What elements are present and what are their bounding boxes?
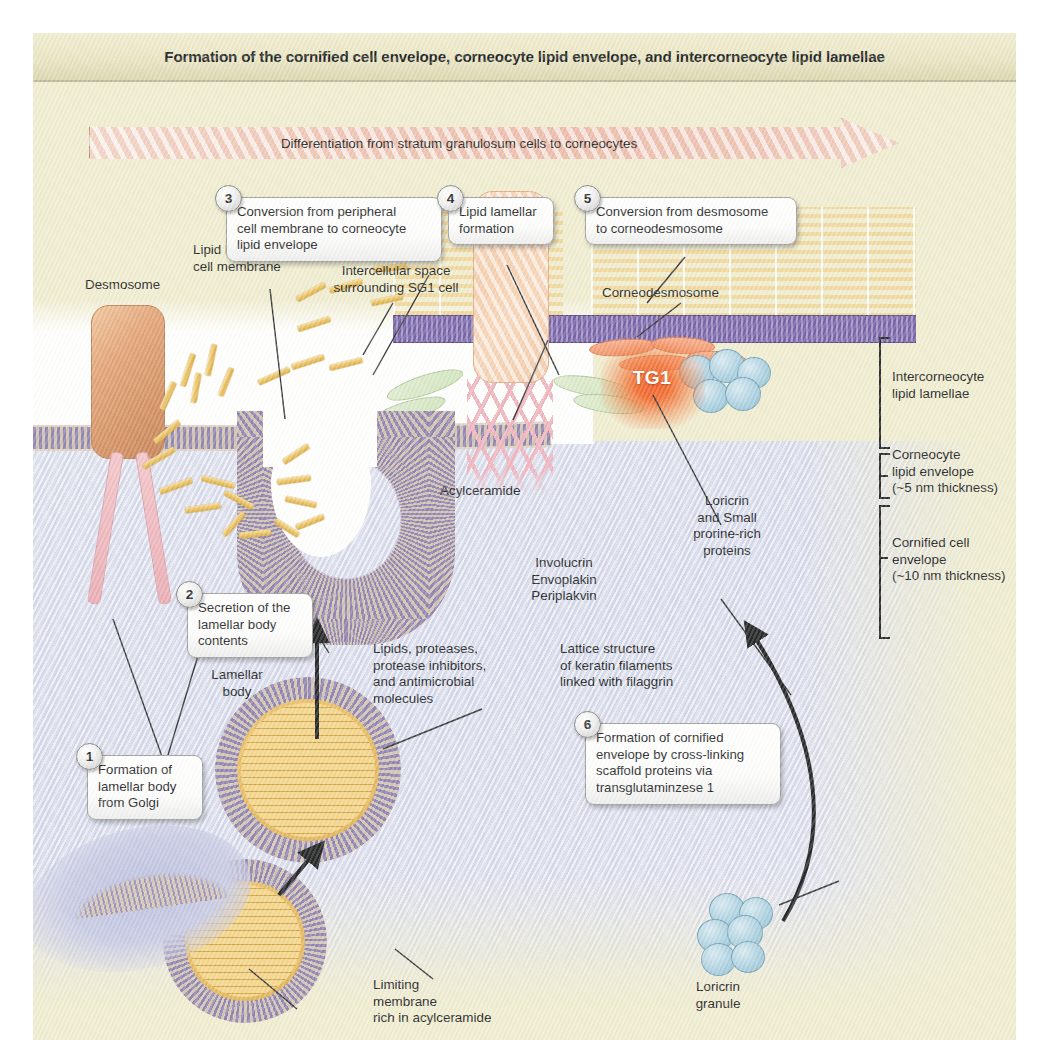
- step-callout-5[interactable]: Conversion from desmosome to corneodesmo…: [585, 197, 797, 245]
- figure-title: Formation of the cornified cell envelope…: [33, 33, 1016, 80]
- bracket-label-intercorneocyte: Intercorneocyte lipid lamellae: [892, 369, 984, 402]
- step-number-1: 1: [76, 743, 103, 770]
- label-involucrin-group: Involucrin Envoplakin Periplakvin: [503, 555, 625, 605]
- label-desmosome: Desmosome: [85, 277, 160, 294]
- label-lattice-structure: Lattice structure of keratin filaments l…: [560, 641, 673, 691]
- bracket-intercorneocyte: [879, 337, 881, 449]
- label-loricrin-sprr: Loricrin and Small prorine-rich proteins: [673, 493, 781, 559]
- bracket-label-cornified-envelope: Cornified cell envelope (~10 nm thicknes…: [892, 535, 1006, 585]
- bracket-annotations: Intercorneocyte lipid lamellae Corneocyt…: [879, 329, 1016, 729]
- bracket-tick: [879, 475, 888, 477]
- flow-arrows: [33, 179, 1016, 1040]
- step-number-3: 3: [215, 185, 242, 212]
- label-intercellular-space: Intercellular space surrounding SG1 cell: [301, 263, 491, 296]
- step-callout-3[interactable]: Conversion from peripheral cell membrane…: [226, 197, 442, 262]
- step-callout-2[interactable]: Secretion of the lamellar body contents: [187, 593, 313, 658]
- step-number-6: 6: [574, 711, 601, 738]
- step-number-2: 2: [176, 581, 203, 608]
- step-callout-6[interactable]: Formation of cornified envelope by cross…: [585, 723, 781, 805]
- label-lamellar-body: Lamellar body: [183, 667, 291, 700]
- label-corneodesmosome: Corneodesmosome: [602, 285, 719, 302]
- arrow-label: Differentiation from stratum granulosum …: [89, 118, 829, 168]
- step-callout-4[interactable]: Lipid lamellar formation: [448, 197, 554, 245]
- label-loricrin-granule: Loricrin granule: [663, 979, 773, 1012]
- label-acylceramide: Acylceramide: [440, 483, 520, 500]
- bracket-cornified-envelope: [879, 505, 881, 639]
- step-callout-1[interactable]: Formation of lamellar body from Golgi: [87, 755, 203, 820]
- figure-panel: Formation of the cornified cell envelope…: [33, 33, 1016, 1040]
- bracket-tick: [879, 557, 888, 559]
- differentiation-arrow: Differentiation from stratum granulosum …: [89, 118, 899, 168]
- label-lipids-contents: Lipids, proteases, protease inhibitors, …: [373, 641, 486, 707]
- step-number-5: 5: [574, 185, 601, 212]
- step-number-4: 4: [437, 185, 464, 212]
- title-divider: [33, 80, 1016, 82]
- bracket-label-corneocyte-envelope: Corneocyte lipid envelope (~5 nm thickne…: [892, 447, 998, 497]
- diagram-scene: TG1: [33, 179, 1016, 1040]
- label-limiting-membrane: Limiting membrane rich in acylceramide: [373, 977, 491, 1027]
